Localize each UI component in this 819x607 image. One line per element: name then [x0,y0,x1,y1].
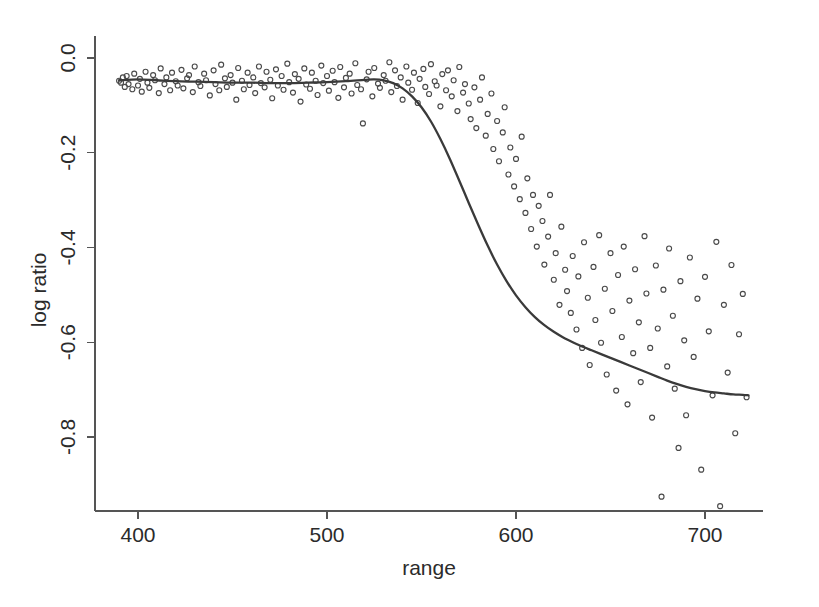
data-point [625,402,630,407]
data-point [519,134,524,139]
scatter-plot: 0.0-0.2-0.4-0.6-0.8400500600700rangelog … [0,0,819,607]
data-point [616,272,621,277]
data-point [264,69,269,74]
data-point [175,83,180,88]
data-point [434,83,439,88]
data-point [740,291,745,296]
data-point [536,203,541,208]
data-point [457,65,462,70]
data-point [706,329,711,334]
data-point [529,227,534,232]
data-point [661,287,666,292]
data-point [462,82,467,87]
data-point [451,78,456,83]
data-point [438,104,443,109]
data-point [222,76,227,81]
data-point [638,380,643,385]
x-tick-label: 500 [309,523,344,546]
data-point [461,90,466,95]
data-point [228,73,233,78]
data-point [570,254,575,259]
data-point [326,88,331,93]
data-point [236,65,241,70]
data-point [445,68,450,73]
data-point [302,66,307,71]
data-point [468,117,473,122]
data-point [644,291,649,296]
data-point [130,87,135,92]
data-point [126,82,131,87]
data-point [427,92,432,97]
y-tick-label: -0.2 [56,135,79,171]
data-point [517,197,522,202]
data-point [168,88,173,93]
data-point [514,156,519,161]
data-point [273,67,278,72]
data-point [619,335,624,340]
data-point [523,210,528,215]
data-point [485,111,490,116]
data-point [298,99,303,104]
data-point [353,61,358,66]
data-point [563,267,568,272]
data-point [559,224,564,229]
data-point [721,302,726,307]
data-point [330,68,335,73]
data-point [682,338,687,343]
data-point [387,60,392,65]
data-point [483,133,488,138]
data-point [455,109,460,114]
data-point [602,286,607,291]
data-point [156,91,161,96]
data-point [548,192,553,197]
data-point [479,75,484,80]
data-point [245,70,250,75]
data-point [440,72,445,77]
data-point [574,327,579,332]
data-point [665,364,670,369]
data-point [307,86,312,91]
data-point [604,372,609,377]
data-point [495,119,500,124]
data-point [525,176,530,181]
data-point [360,121,365,126]
data-point [633,267,638,272]
data-point [349,91,354,96]
data-point [449,94,454,99]
y-tick-label: 0.0 [56,43,79,72]
data-point [546,234,551,239]
data-point [370,94,375,99]
data-point [650,415,655,420]
data-point [659,494,664,499]
data-point [551,277,556,282]
data-point [565,289,570,294]
data-point [599,340,604,345]
data-point [489,91,494,96]
data-point [211,68,216,73]
data-point [224,84,229,89]
data-point [676,445,681,450]
data-point [181,86,186,91]
data-point [687,255,692,260]
data-point [444,88,449,93]
data-point [377,85,382,90]
data-point [406,80,411,85]
data-point [593,317,598,322]
data-point [725,370,730,375]
data-point [290,90,295,95]
data-point [542,262,547,267]
data-point [372,65,377,70]
data-point [655,326,660,331]
data-point [428,62,433,67]
data-point [315,92,320,97]
data-point [729,263,734,268]
data-point [568,310,573,315]
x-tick-label: 400 [120,523,155,546]
data-point [423,84,428,89]
data-point [506,172,511,177]
data-point [672,386,677,391]
data-point [190,90,195,95]
data-point [587,362,592,367]
data-point [553,251,558,256]
data-point [256,64,261,69]
